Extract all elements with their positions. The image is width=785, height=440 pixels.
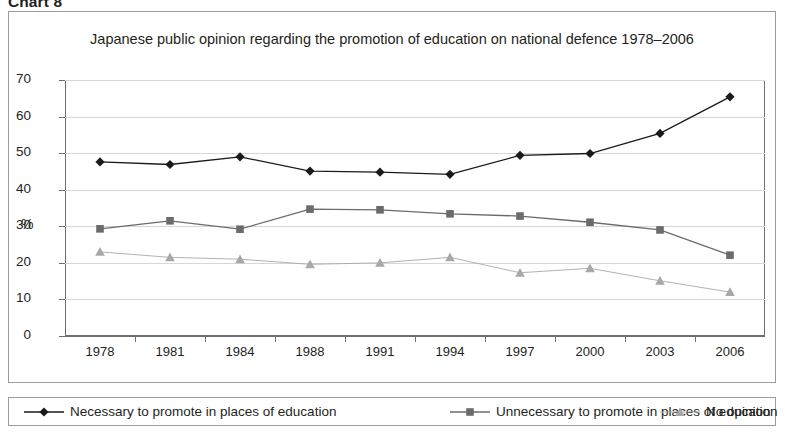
y-tick-label: 0 <box>0 327 31 342</box>
series-layer <box>65 80 765 336</box>
series-line <box>100 97 730 175</box>
diamond-marker <box>95 157 104 166</box>
chart-title: Japanese public opinion regarding the pr… <box>9 31 775 47</box>
data-series <box>95 92 734 179</box>
square-marker <box>586 218 594 226</box>
chart-legend: Necessary to promote in places of educat… <box>8 397 776 426</box>
triangle-marker <box>95 247 105 256</box>
series-line <box>100 252 730 292</box>
x-tick-label: 1978 <box>65 344 135 359</box>
square-marker <box>446 210 454 218</box>
x-tick-mark <box>415 336 416 342</box>
x-tick-label: 1997 <box>485 344 555 359</box>
x-tick-label: 2003 <box>625 344 695 359</box>
chart-frame: Japanese public opinion regarding the pr… <box>8 11 776 383</box>
y-tick-label: 50 <box>0 144 31 159</box>
x-tick-label: 1981 <box>135 344 205 359</box>
square-marker <box>516 212 524 220</box>
square-marker <box>376 206 384 214</box>
diamond-marker <box>165 160 174 169</box>
x-tick-mark <box>555 336 556 342</box>
square-marker <box>166 217 174 225</box>
square-marker <box>306 205 314 213</box>
x-tick-mark <box>275 336 276 342</box>
diamond-marker <box>235 152 244 161</box>
square-marker <box>466 408 474 416</box>
x-tick-label: 2000 <box>555 344 625 359</box>
diamond-marker <box>515 151 524 160</box>
x-tick-mark <box>205 336 206 342</box>
x-tick-label: 1984 <box>205 344 275 359</box>
diamond-marker <box>655 129 664 138</box>
figure-caption: Chart 8 <box>8 0 62 11</box>
diamond-marker <box>585 149 594 158</box>
y-tick-label: 70 <box>0 71 31 86</box>
square-marker <box>726 251 734 259</box>
legend-item[interactable]: No opinion <box>659 398 771 425</box>
x-tick-mark <box>345 336 346 342</box>
legend-label: Necessary to promote in places of educat… <box>70 404 336 419</box>
square-marker <box>236 225 244 233</box>
square-marker <box>656 226 664 234</box>
diamond-marker <box>305 166 314 175</box>
y-tick-label: 60 <box>0 108 31 123</box>
x-tick-mark <box>625 336 626 342</box>
x-tick-mark <box>135 336 136 342</box>
y-tick-mark <box>59 336 65 337</box>
x-tick-label: 1988 <box>275 344 345 359</box>
diamond-marker <box>375 168 384 177</box>
triangle-marker <box>585 264 595 273</box>
y-tick-label: 30 <box>0 217 31 232</box>
square-marker <box>96 225 104 233</box>
y-tick-label: 20 <box>0 254 31 269</box>
legend-item[interactable]: Necessary to promote in places of educat… <box>23 398 336 425</box>
x-tick-label: 1991 <box>345 344 415 359</box>
x-tick-mark <box>485 336 486 342</box>
plot-area: 010203040506070 197819811984198819911994… <box>65 80 765 336</box>
x-tick-mark <box>695 336 696 342</box>
series-line <box>100 209 730 255</box>
x-tick-label: 1994 <box>415 344 485 359</box>
legend-key-diamond-marker <box>23 405 65 419</box>
x-tick-label: 2006 <box>695 344 765 359</box>
legend-key-square-marker <box>449 405 491 419</box>
legend-label: No opinion <box>706 404 771 419</box>
diamond-marker <box>445 170 454 179</box>
chart-figure: Chart 8 Japanese public opinion regardin… <box>0 0 785 440</box>
triangle-marker <box>445 253 455 262</box>
data-series <box>96 205 734 259</box>
diamond-marker <box>725 92 734 101</box>
data-series <box>95 247 735 296</box>
y-tick-label: 10 <box>0 290 31 305</box>
y-tick-label: 40 <box>0 181 31 196</box>
legend-key-triangle-marker <box>659 405 701 419</box>
diamond-marker <box>39 407 48 416</box>
